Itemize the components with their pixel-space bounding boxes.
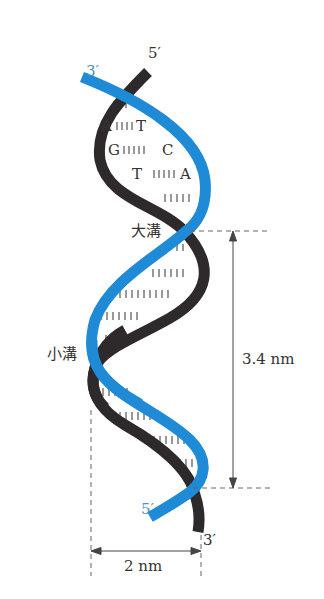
dark-bottom-end-label: 3′ [203,531,217,549]
blue-top-end-label: 3′ [86,62,100,80]
base-left-1: A [100,117,112,135]
base-left-2: G [108,141,120,159]
major-groove-label: 大溝 [131,222,161,240]
blue-bottom-end-label: 5′ [141,500,155,518]
minor-groove-label: 小溝 [47,345,77,363]
diameter-arrow [91,548,201,555]
diameter-label: 2 nm [124,557,162,575]
dark-top-end-label: 5′ [148,44,162,62]
base-right-2: C [162,141,173,159]
pitch-label: 3.4 nm [242,350,295,368]
base-left-3: T [132,165,142,183]
base-right-3: A [179,165,191,183]
base-right-1: T [136,117,146,135]
dna-helix-diagram: 5′ 3′ 5′ 3′ A T G C T A 大溝 小溝 3.4 nm 2 n… [0,0,324,599]
pitch-arrow [230,231,237,488]
